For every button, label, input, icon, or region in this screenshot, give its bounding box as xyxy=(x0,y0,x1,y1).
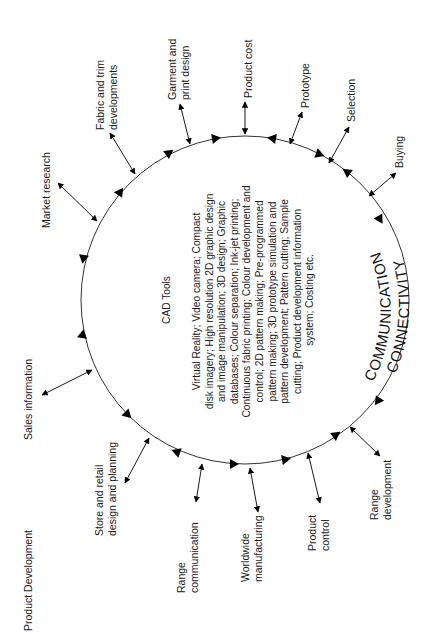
label-range-development: Range development xyxy=(368,460,393,520)
spoke-market-research xyxy=(58,183,97,221)
label-sales-information: Sales information xyxy=(22,359,34,440)
spoke-product-control xyxy=(308,453,320,503)
label-buying: Buying xyxy=(393,136,405,168)
product-development-diagram: Market research Fabric and trim developm… xyxy=(0,0,423,634)
label-store-retail: Store and retail design and planning xyxy=(93,442,118,536)
spoke-store-retail xyxy=(125,438,149,483)
spoke-buying xyxy=(369,173,396,196)
spoke-fabric-trim xyxy=(110,133,135,174)
figure-title: Product Development xyxy=(22,530,34,631)
label-market-research: Market research xyxy=(40,152,52,228)
spoke-worldwide-manufacturing xyxy=(250,468,258,512)
label-prototype: Prototype xyxy=(299,63,311,108)
core-tools-list: Virtual Reality; Video camera; Compact d… xyxy=(191,182,315,417)
spoke-prototype xyxy=(290,112,302,144)
spoke-selection xyxy=(329,127,349,163)
label-selection: Selection xyxy=(345,79,357,122)
label-worldwide-manufacturing: Worldwide manufacturing xyxy=(239,515,264,582)
spoke-range-communication xyxy=(196,464,202,502)
label-product-control: Product control xyxy=(306,512,331,551)
label-fabric-trim: Fabric and trim developments xyxy=(94,57,119,130)
label-garment-print: Garment and print design xyxy=(166,36,191,100)
label-product-cost: Product cost xyxy=(242,40,254,98)
spoke-sales-information xyxy=(42,370,92,395)
spoke-garment-print xyxy=(180,104,190,144)
spoke-range-development xyxy=(350,427,380,456)
label-range-communication: Range communication xyxy=(175,522,200,593)
core-title: CAD Tools xyxy=(161,276,172,324)
